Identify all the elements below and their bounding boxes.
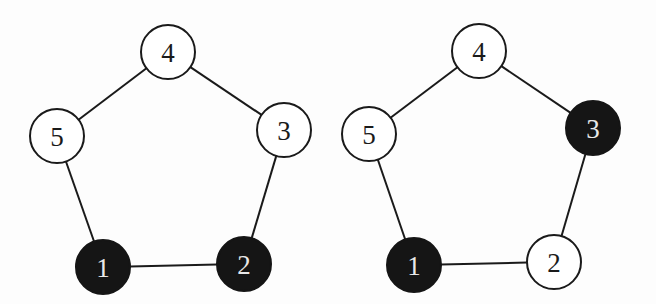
edge-2-3 [252,156,277,238]
node-2: 2 [527,235,581,289]
pentagon-graphs-diagram: 1234512345 [0,0,656,304]
node-label: 5 [362,120,376,150]
node-1-filled: 1 [387,238,441,292]
edge-2-3 [562,154,586,236]
edge-3-4 [190,67,261,115]
node-4: 4 [452,24,506,78]
node-label: 3 [586,114,600,144]
node-label: 2 [237,250,251,280]
edge-1-2 [441,263,527,265]
node-4: 4 [141,25,195,79]
node-label: 4 [161,38,175,68]
edge-4-5 [391,67,458,117]
node-1-filled: 1 [76,240,130,294]
node-5: 5 [342,107,396,161]
edge-5-1 [66,161,94,241]
right-graph: 12345 [342,24,620,292]
edge-1-2 [130,265,217,267]
left-graph: 12345 [30,25,311,294]
node-label: 5 [50,122,64,152]
edge-5-1 [378,160,405,240]
node-label: 2 [547,248,561,278]
node-label: 3 [277,116,291,146]
node-5: 5 [30,109,84,163]
node-label: 4 [472,37,486,67]
node-label: 1 [96,253,110,283]
edge-4-5 [79,68,147,119]
node-2-filled: 2 [217,237,271,291]
edge-3-4 [501,66,570,113]
node-3-filled: 3 [566,101,620,155]
node-3: 3 [257,103,311,157]
node-label: 1 [407,251,421,281]
